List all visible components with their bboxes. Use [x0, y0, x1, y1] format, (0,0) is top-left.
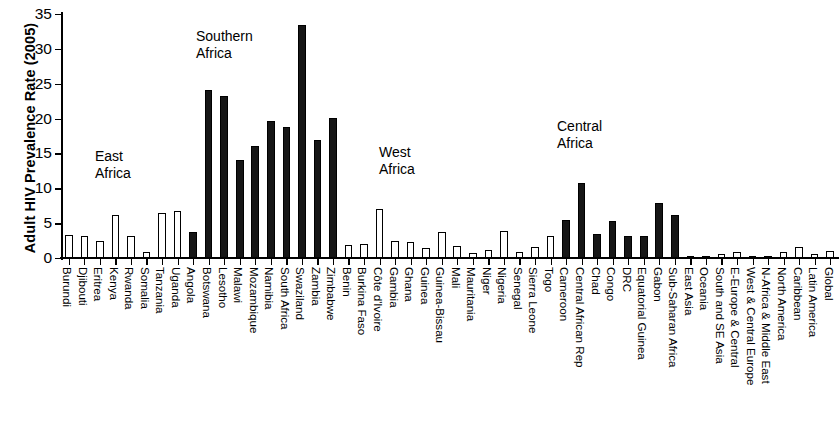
bar: [251, 146, 259, 258]
x-tick-label: Gambia: [388, 267, 400, 308]
bar: [562, 220, 570, 258]
x-tick-label: Guinea: [419, 267, 431, 304]
hiv-prevalence-bar-chart: Adult HIV Prevalence Rate (2005) 0510152…: [0, 0, 840, 440]
x-tick-mark: [115, 258, 116, 265]
x-tick-mark: [535, 258, 536, 265]
x-tick-label: Gabon: [652, 267, 664, 302]
x-tick-label: Mali: [450, 267, 462, 288]
bar: [283, 127, 291, 258]
x-tick-mark: [799, 258, 800, 265]
bar: [158, 213, 166, 258]
x-tick-mark: [426, 258, 427, 265]
region-annotation: East Africa: [95, 148, 131, 181]
x-tick-mark: [364, 258, 365, 265]
region-annotation: Central Africa: [557, 118, 602, 151]
bar: [407, 242, 415, 258]
bar: [205, 90, 213, 258]
y-tick-label: 0: [22, 249, 52, 267]
x-tick-mark: [255, 258, 256, 265]
bar: [640, 236, 648, 258]
x-tick-label: Zimbabwe: [326, 267, 338, 320]
x-tick-mark: [84, 258, 85, 265]
x-tick-label: Burkina Faso: [357, 267, 369, 335]
x-tick-label: Nigeria: [497, 267, 509, 304]
x-tick-mark: [348, 258, 349, 265]
x-tick-mark: [100, 258, 101, 265]
y-tick-label: 5: [22, 214, 52, 232]
x-tick-mark: [178, 258, 179, 265]
x-tick-label: Zambia: [310, 267, 322, 306]
bar: [453, 246, 461, 258]
x-tick-mark: [442, 258, 443, 265]
x-tick-label: East Asia: [683, 267, 695, 315]
x-tick-label: Côte d'Ivoire: [372, 267, 384, 332]
x-tick-mark: [830, 258, 831, 265]
x-tick-label: Eritrea: [93, 267, 105, 301]
x-tick-mark: [380, 258, 381, 265]
x-tick-label: Niger: [481, 267, 493, 295]
bar: [189, 232, 197, 258]
y-tick-mark: [55, 119, 61, 120]
x-tick-label: West & Central Europe: [745, 267, 757, 385]
x-tick-label: N-Africa & Middle East: [761, 267, 773, 384]
bar: [795, 247, 803, 258]
region-annotation: West Africa: [379, 144, 415, 177]
bar: [314, 140, 322, 259]
bar: [81, 236, 89, 258]
x-tick-label: DRC: [621, 267, 633, 292]
x-tick-mark: [628, 258, 629, 265]
x-tick-label: Equatorial Guinea: [637, 267, 649, 360]
x-tick-mark: [582, 258, 583, 265]
x-tick-label: Djibouti: [77, 267, 89, 306]
bar: [438, 232, 446, 258]
bar: [298, 25, 306, 258]
x-tick-label: Somalia: [139, 267, 151, 309]
bar: [65, 235, 73, 258]
x-tick-mark: [690, 258, 691, 265]
x-tick-mark: [753, 258, 754, 265]
bar: [267, 121, 275, 258]
x-tick-label: Tanzania: [155, 267, 167, 313]
y-tick-label: 35: [22, 5, 52, 23]
x-tick-mark: [488, 258, 489, 265]
x-tick-label: Namibia: [264, 267, 276, 310]
bar: [826, 251, 834, 258]
bar: [329, 118, 337, 258]
x-tick-label: Malawi: [233, 267, 245, 303]
x-tick-label: Togo: [543, 267, 555, 292]
x-tick-mark: [271, 258, 272, 265]
y-tick-label: 30: [22, 40, 52, 58]
y-tick-mark: [55, 84, 61, 85]
x-tick-mark: [644, 258, 645, 265]
x-tick-mark: [131, 258, 132, 265]
x-tick-mark: [333, 258, 334, 265]
x-tick-mark: [659, 258, 660, 265]
x-tick-mark: [551, 258, 552, 265]
bar: [345, 245, 353, 258]
bar: [655, 203, 663, 258]
bar: [593, 234, 601, 258]
bar: [531, 247, 539, 258]
x-tick-mark: [597, 258, 598, 265]
x-tick-mark: [69, 258, 70, 265]
x-tick-label: Swaziland: [295, 267, 307, 320]
x-tick-mark: [411, 258, 412, 265]
x-tick-mark: [473, 258, 474, 265]
x-tick-label: Mozambique: [248, 267, 260, 333]
x-tick-label: South and SE Asia: [714, 267, 726, 364]
x-tick-label: Latin America: [807, 267, 819, 337]
x-tick-label: South Africa: [279, 267, 291, 330]
y-tick-mark: [55, 258, 61, 259]
y-tick-mark: [55, 223, 61, 224]
x-tick-mark: [768, 258, 769, 265]
x-tick-mark: [815, 258, 816, 265]
x-tick-mark: [209, 258, 210, 265]
x-tick-label: Central African Rep: [574, 267, 586, 368]
x-tick-label: Cameroon: [559, 267, 571, 321]
y-tick-label: 20: [22, 110, 52, 128]
y-tick-mark: [55, 49, 61, 50]
x-tick-label: Uganda: [170, 267, 182, 308]
x-tick-label: Angola: [186, 267, 198, 303]
y-tick-label: 10: [22, 179, 52, 197]
x-tick-label: Global: [823, 267, 835, 301]
